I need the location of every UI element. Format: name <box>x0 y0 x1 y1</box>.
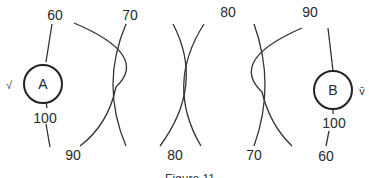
label-80-bottom: 80 <box>167 147 183 163</box>
label-90-top: 90 <box>302 4 318 20</box>
label-90-bottom: 90 <box>65 147 81 163</box>
source-b-label: B <box>328 82 337 98</box>
source-b-side-label: v̄ <box>359 85 365 97</box>
label-60-bottom: 60 <box>318 148 334 164</box>
figure-caption: Figure 11 <box>165 172 215 178</box>
b-lower-line <box>326 131 329 146</box>
b-upper-line <box>328 28 333 71</box>
label-80-top: 80 <box>220 4 236 20</box>
source-a-label: A <box>38 76 48 92</box>
arc-90-left <box>74 23 127 146</box>
arc-80-a <box>160 24 186 146</box>
label-70-bottom: 70 <box>246 147 262 163</box>
label-70-top: 70 <box>122 7 138 23</box>
arc-80-b <box>184 24 204 146</box>
arc-70-left <box>113 24 126 146</box>
label-a-100: 100 <box>33 110 57 126</box>
label-b-100: 100 <box>322 115 346 131</box>
a-lower-line <box>46 124 50 147</box>
a-upper-line <box>46 24 52 62</box>
source-a-side-label: √ <box>6 79 13 91</box>
diagram-canvas: A √ 60 100 90 70 80 80 70 90 B v̄ 100 60… <box>0 0 369 178</box>
label-60-top: 60 <box>47 7 63 23</box>
